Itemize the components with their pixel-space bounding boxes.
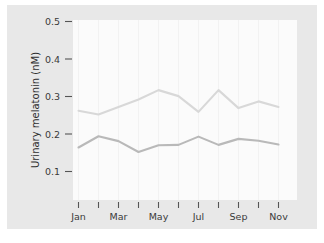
plot-area-background — [73, 20, 297, 200]
y-tick-label-0.4: 0.4 — [45, 54, 60, 65]
line-chart: 0.5 0.4 0.3 0.2 0.1 Urinary melatonin (n… — [0, 0, 324, 243]
x-axis-ticks — [79, 202, 279, 208]
x-tick-label-jan: Jan — [70, 211, 86, 222]
y-tick-label-0.3: 0.3 — [45, 91, 60, 102]
x-tick-label-mar: Mar — [110, 211, 128, 222]
x-tick-label-sep: Sep — [230, 211, 248, 222]
x-tick-label-jul: Jul — [192, 211, 204, 222]
y-tick-label-0.5: 0.5 — [45, 16, 60, 27]
y-tick-label-0.2: 0.2 — [45, 129, 60, 140]
y-axis-title: Urinary melatonin (nM) — [30, 52, 41, 168]
x-tick-label-nov: Nov — [269, 211, 288, 222]
y-tick-label-0.1: 0.1 — [45, 166, 60, 177]
y-axis-ticks — [65, 22, 72, 172]
figure-root: 0.5 0.4 0.3 0.2 0.1 Urinary melatonin (n… — [0, 0, 324, 243]
x-tick-label-may: May — [149, 211, 169, 222]
